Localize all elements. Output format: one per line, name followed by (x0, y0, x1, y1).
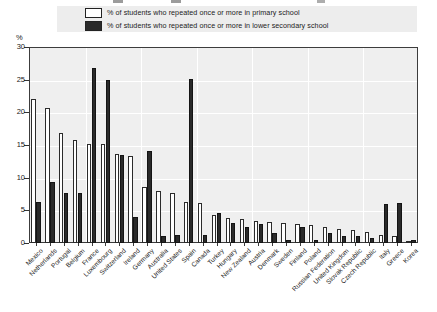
bar-group (281, 47, 290, 243)
legend-item-secondary: % of students who repeated once or more … (57, 19, 417, 32)
bar-lower-secondary-school (36, 202, 40, 243)
legend-label-secondary: % of students who repeated once or more … (107, 21, 328, 30)
bar-group (379, 47, 388, 243)
bar-group (101, 47, 110, 243)
bar-primary-school (101, 144, 105, 243)
bar-primary-school (45, 108, 49, 243)
bar-group (295, 47, 304, 243)
y-axis-tick-label: 5 (3, 206, 25, 214)
bar-group (31, 47, 40, 243)
bar-group (156, 47, 165, 243)
x-axis-labels: MexicoNetherlandsPortugalBelgiumFranceLu… (0, 243, 437, 312)
bar-group (128, 47, 137, 243)
bar-group (142, 47, 151, 243)
top-rule-decoration (55, 0, 415, 3)
legend-label-primary: % of students who repeated once or more … (107, 8, 300, 17)
bar-lower-secondary-school (189, 79, 193, 243)
bar-group (240, 47, 249, 243)
legend-item-primary: % of students who repeated once or more … (57, 6, 417, 19)
bar-primary-school (87, 144, 91, 243)
bar-group (198, 47, 207, 243)
bar-group (115, 47, 124, 243)
bar-group (226, 47, 235, 243)
bar-group (392, 47, 401, 243)
bar-group (267, 47, 276, 243)
y-axis-tick-label: 30 (3, 43, 25, 51)
bar-group (351, 47, 360, 243)
bar-group (184, 47, 193, 243)
bar-primary-school (31, 99, 35, 243)
black-square-icon (85, 21, 102, 31)
y-axis-tick-label: 20 (3, 108, 25, 116)
bar-group (45, 47, 54, 243)
bar-group (323, 47, 332, 243)
bars-layer (29, 47, 418, 243)
bar-group (406, 47, 415, 243)
bar-lower-secondary-school (92, 68, 96, 243)
bar-group (87, 47, 96, 243)
chart-legend: % of students who repeated once or more … (57, 6, 417, 32)
white-square-icon (85, 8, 102, 18)
bar-group (212, 47, 221, 243)
bar-primary-school (59, 133, 63, 243)
bar-group (59, 47, 68, 243)
bar-primary-school (115, 154, 119, 244)
bar-group (309, 47, 318, 243)
y-axis-tick-label: 10 (3, 174, 25, 182)
y-axis-tick-label: 25 (3, 76, 25, 84)
bar-group (170, 47, 179, 243)
bar-group (254, 47, 263, 243)
bar-group (337, 47, 346, 243)
y-axis-tick-label: 15 (3, 141, 25, 149)
bar-group (73, 47, 82, 243)
bar-lower-secondary-school (106, 80, 110, 243)
